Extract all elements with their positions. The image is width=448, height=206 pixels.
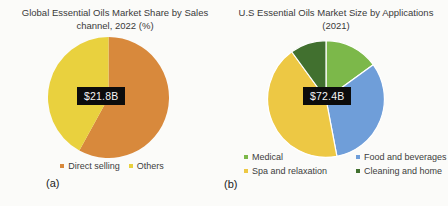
- legend-item-others: Others: [129, 161, 164, 171]
- pie-b-value-label: $72.4B: [303, 87, 351, 105]
- chart-a-title: Global Essential Oils Market Share by Sa…: [8, 6, 222, 32]
- chart-a-title-line-1: Global Essential Oils Market Share by Sa…: [22, 7, 208, 18]
- legend-swatch: [244, 155, 248, 159]
- legend-swatch: [244, 169, 248, 173]
- legend-label: Others: [137, 161, 164, 171]
- legend-item-direct-selling: Direct selling: [60, 161, 120, 171]
- legend-label: Medical: [252, 152, 283, 162]
- chart-b-title-line-1: U.S Essential Oils Market Size by Applic…: [239, 7, 434, 18]
- chart-b-title: U.S Essential Oils Market Size by Applic…: [228, 6, 444, 32]
- legend-item-medical: Medical: [244, 152, 356, 162]
- legend-swatch: [129, 164, 133, 168]
- pie-a-value-label: $21.8B: [77, 87, 125, 105]
- chart-a-title-line-2: channel, 2022 (%): [76, 20, 153, 31]
- legend-item-food-and-beverages: Food and beverages: [356, 152, 447, 162]
- legend-b: MedicalFood and beveragesSpa and relaxat…: [244, 152, 447, 176]
- legend-label: Spa and relaxation: [252, 166, 327, 176]
- panel-a-label: (a): [46, 177, 59, 189]
- legend-item-spa-and-relaxation: Spa and relaxation: [244, 166, 356, 176]
- legend-swatch: [356, 169, 360, 173]
- legend-swatch: [356, 155, 360, 159]
- legend-swatch: [60, 164, 64, 168]
- chart-b-title-line-2: (2021): [322, 20, 349, 31]
- legend-item-cleaning-and-home: Cleaning and home: [356, 166, 447, 176]
- panel-b-label: (b): [224, 178, 237, 190]
- legend-a: Direct sellingOthers: [0, 161, 224, 171]
- figure-dual-pie-charts: Global Essential Oils Market Share by Sa…: [0, 0, 448, 206]
- legend-label: Cleaning and home: [364, 166, 442, 176]
- legend-label: Food and beverages: [364, 152, 447, 162]
- legend-label: Direct selling: [68, 161, 120, 171]
